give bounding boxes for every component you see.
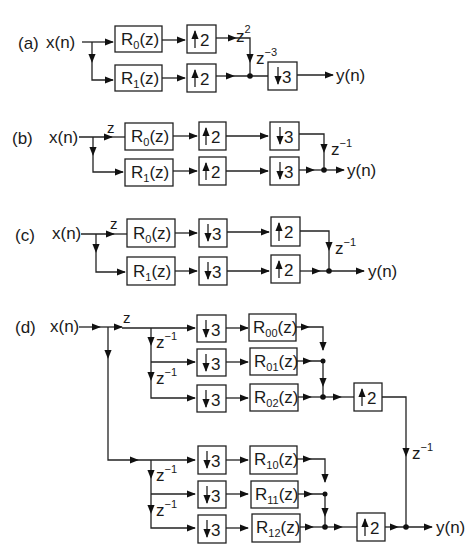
sum-node [321, 359, 326, 364]
panel-c: (c) x(n) z R0(z) 3 2 z−1 R1(z) [15, 215, 397, 285]
upsampler-box: 2 [357, 513, 385, 541]
downsampler-box: 3 [199, 219, 227, 247]
sum-node [323, 492, 328, 497]
output-label: y(n) [336, 66, 365, 85]
panel-label: (a) [18, 34, 39, 53]
svg-text:2: 2 [200, 70, 209, 89]
wire [299, 134, 324, 152]
wire [309, 327, 323, 350]
svg-text:R0(z): R0(z) [133, 224, 171, 245]
upsampler-box: 2 [187, 25, 216, 53]
sum-node [320, 394, 326, 400]
svg-text:R1(z): R1(z) [133, 262, 171, 283]
chain-delay-label: z−1 [156, 366, 177, 388]
svg-text:2: 2 [211, 128, 220, 147]
svg-text:2: 2 [370, 519, 379, 538]
upsampler-box: 2 [199, 157, 226, 185]
output-label: y(n) [347, 161, 376, 180]
svg-text:3: 3 [284, 163, 293, 182]
wire [311, 361, 323, 386]
panel-a: (a) x(n) R0(z) 2 z2 z−3 R1(z) 2 [18, 23, 365, 92]
wire [108, 358, 138, 460]
svg-text:3: 3 [211, 391, 220, 410]
panel-d: (d) x(n) z z−1 z−1 3 3 3 [15, 309, 465, 543]
filter-r00-box: R00(z) [249, 314, 297, 341]
sum-node [321, 167, 327, 173]
advance-label: z [107, 119, 115, 136]
advance-label: z [110, 215, 118, 232]
svg-text:3: 3 [211, 452, 220, 471]
svg-text:3: 3 [211, 321, 220, 340]
svg-text:R1(z): R1(z) [131, 163, 169, 184]
upsampler-box: 2 [271, 217, 300, 246]
filter-r12-box: R12(z) [252, 514, 300, 542]
svg-text:R0(z): R0(z) [121, 30, 159, 51]
downsampler-box: 3 [197, 315, 226, 342]
filter-r0-box: R0(z) [125, 123, 173, 150]
panel-label: (b) [12, 129, 33, 148]
downsampler-box: 3 [198, 481, 226, 508]
svg-text:3: 3 [212, 225, 221, 244]
panel-label: (d) [15, 318, 36, 337]
filter-r11-box: R11(z) [251, 481, 299, 508]
svg-text:3: 3 [284, 128, 293, 147]
input-label: x(n) [52, 224, 81, 243]
filter-r1-box: R1(z) [127, 257, 175, 285]
sum-node [322, 524, 328, 530]
downsampler-box: 3 [197, 385, 226, 412]
downsampler-box: 3 [198, 515, 226, 543]
input-label: x(n) [50, 317, 79, 336]
downsampler-box: 3 [270, 157, 299, 185]
advance-label: z [123, 309, 131, 326]
downsampler-box: 3 [197, 349, 226, 376]
sum-node [326, 268, 332, 274]
panel-label: (c) [15, 226, 35, 245]
delay-label: z−1 [331, 137, 352, 159]
filter-r10-box: R10(z) [250, 446, 298, 474]
filter-r0-box: R0(z) [127, 219, 175, 247]
input-label: x(n) [49, 128, 78, 147]
sum-node [403, 524, 409, 530]
svg-text:2: 2 [200, 31, 209, 50]
upsampler-box: 2 [271, 255, 300, 283]
svg-text:3: 3 [211, 355, 220, 374]
upsampler-box: 2 [199, 122, 226, 150]
upsampler-box: 2 [187, 64, 216, 92]
wire [311, 459, 325, 482]
svg-text:R0(z): R0(z) [131, 127, 169, 148]
output-label: y(n) [436, 518, 465, 537]
svg-text:R1(z): R1(z) [121, 69, 159, 90]
svg-text:3: 3 [282, 68, 291, 87]
svg-text:3: 3 [211, 487, 220, 506]
chain-delay-label: z−1 [156, 330, 177, 352]
wire [92, 62, 113, 80]
sum-node [247, 73, 253, 79]
downsampler-box: 3 [199, 257, 227, 285]
output-delay-label: z−1 [412, 441, 433, 463]
wire [382, 397, 406, 456]
wire [93, 155, 123, 172]
wire [300, 231, 329, 250]
svg-text:2: 2 [284, 261, 293, 280]
wire [312, 494, 325, 516]
panel-b: (b) x(n) z R0(z) 2 3 z−1 R1(z) [12, 119, 376, 186]
svg-text:2: 2 [367, 389, 376, 408]
wire [96, 252, 125, 272]
svg-text:3: 3 [212, 263, 221, 282]
delay-label: z−1 [335, 236, 356, 258]
downsampler-box: 3 [198, 446, 226, 474]
input-label: x(n) [46, 33, 75, 52]
output-label: y(n) [368, 262, 397, 281]
downsampler-box: 3 [270, 122, 299, 150]
filter-r01-box: R01(z) [250, 348, 298, 375]
svg-text:3: 3 [211, 521, 220, 540]
filter-r02-box: R02(z) [250, 384, 298, 411]
chain-delay-label: z−1 [156, 463, 177, 485]
chain-delay-label: z−1 [156, 498, 177, 520]
svg-text:2: 2 [284, 223, 293, 242]
filter-r1-box: R1(z) [115, 65, 162, 91]
filter-r1-box: R1(z) [125, 159, 173, 186]
delay-label: z2 [236, 23, 251, 46]
diagram-canvas: (a) x(n) R0(z) 2 z2 z−3 R1(z) 2 [0, 0, 475, 547]
svg-text:2: 2 [211, 163, 220, 182]
